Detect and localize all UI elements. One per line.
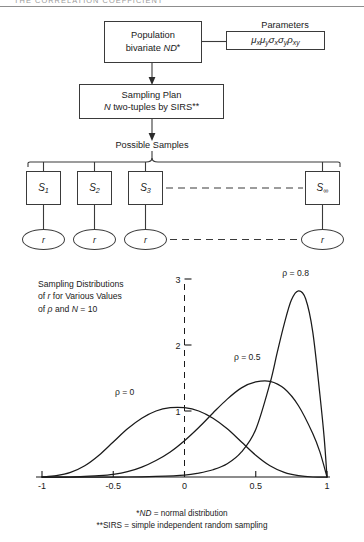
curve-label: ρ = 0.8: [282, 268, 309, 278]
sampling-distribution-chart: -1-0.500.51123 ρ = 0ρ = 0.5ρ = 0.8: [0, 0, 364, 542]
curve-label: ρ = 0.5: [234, 352, 261, 362]
x-tick-label: 0: [182, 481, 187, 491]
y-tick-label: 3: [175, 275, 180, 285]
footnote-definition: simple independent random sampling: [131, 521, 267, 530]
footnote-definition: normal distribution: [161, 509, 228, 518]
x-tick-label: 1: [324, 481, 329, 491]
footnote-sep: =: [151, 509, 160, 518]
curve-label: ρ = 0: [115, 387, 135, 397]
footnote-term: SIRS: [103, 521, 122, 530]
footnote-term: ND: [140, 509, 152, 518]
chart-annotations: ρ = 0ρ = 0.5ρ = 0.8: [115, 268, 309, 397]
footnote-nd: *ND = normal distribution: [0, 508, 364, 520]
footnotes: *ND = normal distribution **SIRS = simpl…: [0, 508, 364, 533]
footnote-sep: =: [122, 521, 131, 530]
chart-axes: -1-0.500.51123: [36, 275, 330, 492]
x-tick-label: -1: [38, 481, 46, 491]
y-tick-label: 1: [175, 407, 180, 417]
x-tick-label: -0.5: [105, 481, 121, 491]
footnote-sirs: **SIRS = simple independent random sampl…: [0, 520, 364, 532]
figure-page: THE CORRELATION COEFFICIENT: [0, 0, 364, 542]
y-tick-label: 2: [175, 341, 180, 351]
x-tick-label: 0.5: [249, 481, 262, 491]
